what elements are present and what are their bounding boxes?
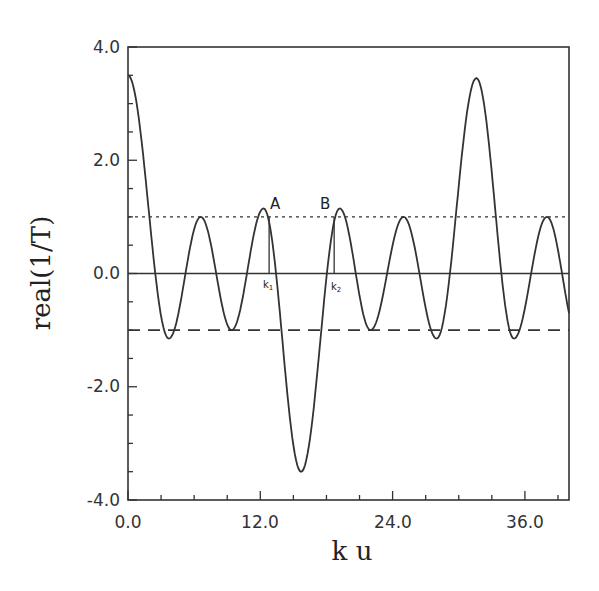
x-axis-title: k u [332,536,373,566]
y-tick-label: -2.0 [87,376,120,396]
y-tick-label: 4.0 [93,37,120,57]
annotation-b: B [320,195,330,213]
annotation-a: A [270,195,281,213]
y-axis-title: real(1/T) [26,216,56,331]
y-tick-label: 2.0 [93,150,120,170]
k-markers [269,217,334,274]
annotation-k2: k2 [331,281,341,294]
y-tick-label: -4.0 [87,490,120,510]
x-tick-label: 36.0 [506,512,544,532]
annotation-k1: k1 [263,279,273,292]
x-tick-label: 12.0 [241,512,279,532]
x-tick-label: 24.0 [374,512,412,532]
x-tick-label: 0.0 [114,512,141,532]
y-tick-label: 0.0 [93,263,120,283]
chart: 4.0 2.0 0.0 -2.0 -4.0 0.0 12.0 24.0 36.0… [0,0,599,591]
